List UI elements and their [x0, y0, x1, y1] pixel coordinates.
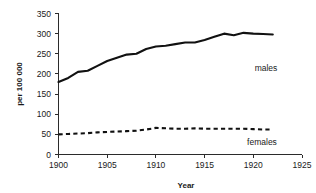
y-tick-label-250: 250: [37, 49, 51, 59]
males-series-label: males: [255, 63, 278, 73]
chart-figure: 350 300 250 200 150 100 50 0 1900 1905 1…: [0, 0, 316, 193]
x-tick-label-1900: 1900: [49, 160, 68, 170]
series-line-males: [59, 33, 273, 82]
y-axis-ticks: [55, 14, 59, 155]
line-chart: 350 300 250 200 150 100 50 0 1900 1905 1…: [0, 0, 316, 193]
y-tick-label-0: 0: [46, 150, 51, 160]
x-tick-label-1910: 1910: [146, 160, 165, 170]
x-tick-label-1925: 1925: [293, 160, 312, 170]
y-tick-label-200: 200: [37, 69, 51, 79]
x-axis-ticks: [59, 155, 303, 159]
y-axis-tick-labels: 350 300 250 200 150 100 50 0: [37, 9, 51, 160]
x-tick-label-1905: 1905: [98, 160, 117, 170]
y-tick-label-100: 100: [37, 109, 51, 119]
y-tick-label-350: 350: [37, 9, 51, 19]
y-tick-label-50: 50: [42, 129, 52, 139]
y-axis-title: per 100 000: [15, 62, 24, 106]
x-tick-label-1915: 1915: [195, 160, 214, 170]
females-series-label: females: [247, 137, 277, 147]
x-axis-title: Year: [178, 181, 195, 190]
x-axis-tick-labels: 1900 1905 1910 1915 1920 1925: [49, 160, 312, 170]
x-tick-label-1920: 1920: [244, 160, 263, 170]
series-line-females: [59, 128, 273, 134]
y-tick-label-150: 150: [37, 89, 51, 99]
y-tick-label-300: 300: [37, 29, 51, 39]
